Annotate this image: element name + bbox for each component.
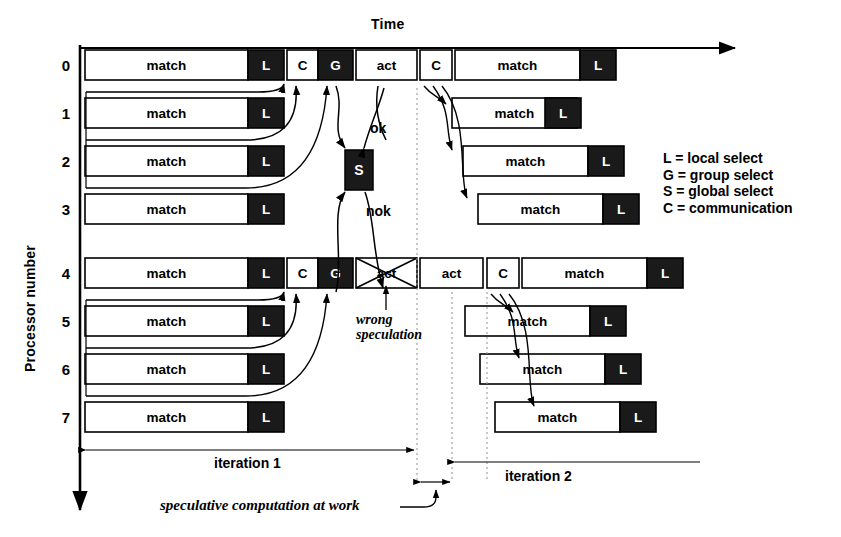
processor-row-4: matchLCGactactCmatchL	[85, 258, 683, 288]
processor-number-0: 0	[52, 57, 70, 74]
processor-number-3: 3	[52, 201, 70, 218]
block-label-match: match	[506, 154, 546, 169]
block-label-L: L	[594, 58, 602, 73]
block-label-match: match	[147, 58, 187, 73]
block-label-C: C	[298, 58, 308, 73]
processor-axis-label: Processor number	[22, 245, 38, 372]
block-label-L: L	[262, 410, 270, 425]
block-label-L: L	[262, 266, 270, 281]
diagram-canvas: matchLCGactCmatchLmatchLmatchLmatchLmatc…	[0, 0, 841, 537]
legend-block: L = local select G = group select S = gl…	[663, 150, 793, 216]
block-label-L: L	[604, 314, 612, 329]
block-label-match: match	[147, 106, 187, 121]
block-label-match: match	[498, 58, 538, 73]
processor-number-2: 2	[52, 153, 70, 170]
block-label-match: match	[147, 314, 187, 329]
block-label-match: match	[495, 106, 535, 121]
processor-number-5: 5	[52, 313, 70, 330]
processor-row-6: matchLmatchL	[85, 354, 641, 384]
row-blocks-group: matchLCGactCmatchLmatchLmatchLmatchLmatc…	[85, 50, 683, 432]
processor-number-7: 7	[52, 409, 70, 426]
block-label-match: match	[147, 202, 187, 217]
block-label-L: L	[262, 362, 270, 377]
block-label-match: match	[147, 266, 187, 281]
nok-label: nok	[366, 203, 391, 219]
block-label-L: L	[634, 410, 642, 425]
block-label-L: L	[262, 106, 270, 121]
processor-number-6: 6	[52, 361, 70, 378]
wrong-speculation-note: wrong speculation	[356, 312, 422, 342]
block-label-L: L	[617, 202, 625, 217]
block-label-C: C	[498, 266, 508, 281]
wrong-speculation-line1: wrong	[356, 312, 422, 327]
block-label-G: G	[330, 58, 341, 73]
iteration-2-label: iteration 2	[505, 468, 572, 484]
iteration-1-label: iteration 1	[214, 455, 281, 471]
processor-number-4: 4	[52, 265, 70, 282]
ok-label: ok	[370, 120, 386, 136]
processor-row-3: matchLmatchL	[85, 194, 639, 224]
block-label-match: match	[521, 202, 561, 217]
processor-row-7: matchLmatchL	[85, 402, 656, 432]
block-label-L: L	[602, 154, 610, 169]
block-label-L: L	[619, 362, 627, 377]
block-label-match: match	[147, 362, 187, 377]
block-label-match: match	[147, 154, 187, 169]
speculative-callout-line	[400, 490, 436, 507]
speculative-computation-note: speculative computation at work	[160, 498, 360, 513]
block-label-act: act	[377, 58, 397, 73]
block-label-C: C	[431, 58, 441, 73]
block-label-match: match	[565, 266, 605, 281]
svg-text:S: S	[354, 162, 363, 178]
processor-row-0: matchLCGactCmatchL	[85, 50, 616, 80]
block-label-L: L	[262, 202, 270, 217]
iteration-span-bars	[86, 450, 700, 482]
block-label-C: C	[298, 266, 308, 281]
time-axis-label: Time	[371, 16, 405, 32]
block-label-act: act	[442, 266, 462, 281]
processor-row-1: matchLmatchL	[85, 98, 581, 128]
processor-number-1: 1	[52, 105, 70, 122]
block-label-L: L	[262, 154, 270, 169]
block-label-L: L	[262, 314, 270, 329]
global-select-block: S	[345, 150, 373, 190]
wrong-speculation-line2: speculation	[356, 327, 422, 342]
block-label-L: L	[262, 58, 270, 73]
block-label-L: L	[559, 106, 567, 121]
block-label-match: match	[147, 410, 187, 425]
block-label-L: L	[661, 266, 669, 281]
timeline-svg: matchLCGactCmatchLmatchLmatchLmatchLmatc…	[0, 0, 841, 537]
block-label-match: match	[538, 410, 578, 425]
